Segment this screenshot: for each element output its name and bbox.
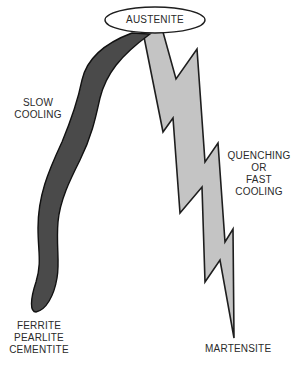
result-line: PEARLITE xyxy=(8,332,70,344)
quenching-result: MARTENSITE xyxy=(205,343,265,355)
result-line: MARTENSITE xyxy=(205,343,265,355)
slow-cooling-label: SLOW COOLING xyxy=(8,97,68,121)
label-line: QUENCHING xyxy=(224,150,294,162)
slow-cooling-band xyxy=(32,33,151,312)
label-line: SLOW xyxy=(8,97,68,109)
quenching-lightning-bolt xyxy=(143,32,234,338)
label-line: COOLING xyxy=(8,109,68,121)
label-line: OR xyxy=(224,162,294,174)
slow-cooling-result: FERRITE PEARLITE CEMENTITE xyxy=(8,320,70,356)
austenite-label: AUSTENITE xyxy=(105,14,205,26)
austenite-text: AUSTENITE xyxy=(105,14,205,26)
label-line: FAST xyxy=(224,174,294,186)
label-line: COOLING xyxy=(224,186,294,198)
quenching-label: QUENCHING OR FAST COOLING xyxy=(224,150,294,198)
result-line: CEMENTITE xyxy=(8,344,70,356)
result-line: FERRITE xyxy=(8,320,70,332)
